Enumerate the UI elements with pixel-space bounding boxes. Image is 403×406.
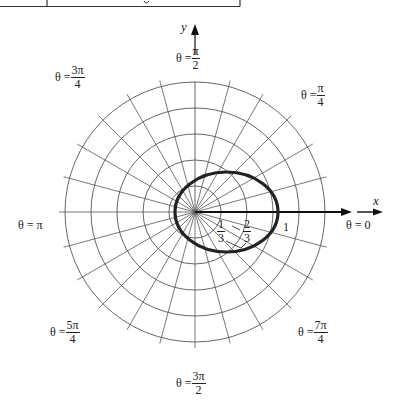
radial-line xyxy=(99,116,195,212)
radial-line xyxy=(99,212,195,308)
theta-label-pi-4: θ = π4 xyxy=(301,82,325,108)
theta-label-3pi-2: θ = 3π2 xyxy=(176,370,206,396)
theta-label-pi: θ = π xyxy=(18,219,43,231)
tick-one-third: 13 xyxy=(217,218,225,244)
theta-label-5pi-4: θ = 5π4 xyxy=(50,319,80,345)
x-axis-label: x xyxy=(373,193,379,209)
radial-lines xyxy=(59,81,326,348)
tick-two-thirds: 23 xyxy=(243,218,251,244)
theta-label-3pi-4: θ = 3π4 xyxy=(55,64,85,90)
y-axis-label: y xyxy=(181,19,187,35)
table-fragment xyxy=(0,0,240,7)
theta-label-7pi-4: θ = 7π4 xyxy=(298,319,328,345)
x-axis xyxy=(195,208,383,216)
radial-line xyxy=(195,116,291,212)
theta-label-0: θ = 0 xyxy=(346,219,371,231)
radial-line xyxy=(195,94,263,212)
radial-line xyxy=(127,212,195,330)
theta-label-pi-2: θ = π2 xyxy=(176,45,200,71)
radial-line xyxy=(127,94,195,212)
radial-line xyxy=(195,212,263,330)
tick-one: 1 xyxy=(283,220,289,235)
